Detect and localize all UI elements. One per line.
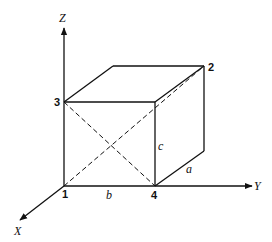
- edge-b-label: b: [106, 189, 112, 201]
- edge-c-label: c: [158, 140, 163, 152]
- edge-a-label: a: [186, 163, 192, 175]
- edge-top-left: [64, 66, 113, 102]
- z-axis-label: Z: [59, 12, 66, 24]
- diagonal-1-2: [64, 66, 204, 186]
- y-axis-label: Y: [254, 180, 261, 192]
- vertex-4-label: 4: [151, 190, 157, 201]
- x-axis-label: X: [14, 225, 21, 237]
- diagonal-3-4: [64, 102, 155, 186]
- edge-a: [155, 151, 204, 186]
- x-axis: [20, 186, 64, 220]
- edge-top-right: [155, 66, 204, 102]
- vertex-1-label: 1: [62, 189, 68, 200]
- diagram-lines: [0, 0, 272, 242]
- vertex-2-label: 2: [208, 62, 214, 73]
- vertex-3-label: 3: [54, 97, 60, 108]
- cube-diagram: Z Y X 1 2 3 4 a b c: [0, 0, 272, 242]
